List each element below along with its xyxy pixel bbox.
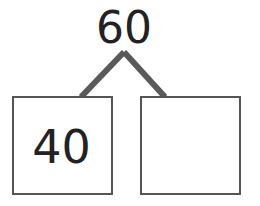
- whole-value: 60: [0, 6, 248, 50]
- connector-right: [124, 52, 165, 97]
- connector-left: [81, 52, 124, 97]
- part-value-left: 40: [32, 124, 91, 170]
- part-box-right[interactable]: [140, 96, 241, 195]
- part-box-left: 40: [12, 96, 113, 195]
